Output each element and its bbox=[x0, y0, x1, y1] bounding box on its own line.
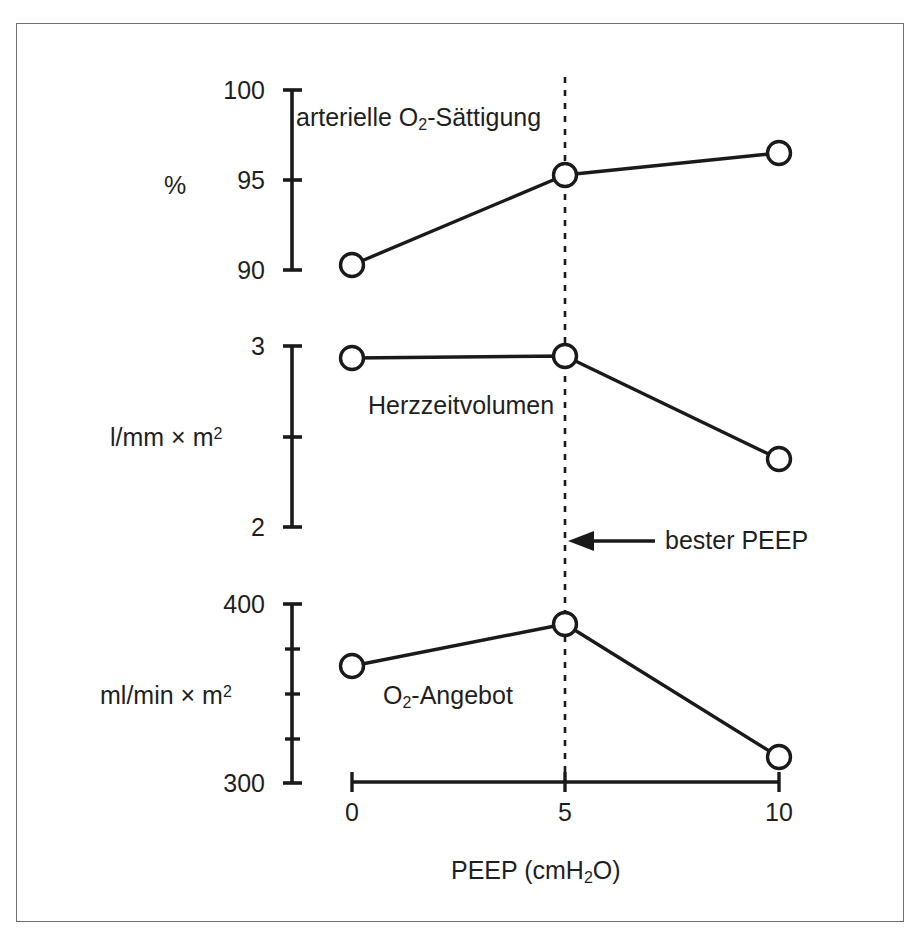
x-tick-label-10: 10 bbox=[749, 800, 809, 825]
x-axis bbox=[352, 772, 779, 792]
x-tick-label-0: 0 bbox=[322, 800, 382, 825]
x-tick-label-5: 5 bbox=[535, 800, 595, 825]
series-label-oxygen-saturation: arterielle O2-Sättigung bbox=[296, 105, 541, 133]
y-tick-label-sat-95: 95 bbox=[193, 168, 265, 193]
series-label-cardiac-output: Herzzeitvolumen bbox=[368, 393, 554, 418]
y-axis-unit-superscript: 2 bbox=[213, 425, 222, 442]
series-label-text-tail: -Angebot bbox=[411, 681, 512, 709]
y-axis-unit-text: l/mm × m bbox=[110, 423, 213, 451]
y-tick-label-hzv-2: 2 bbox=[193, 515, 265, 540]
y-tick-label-delivery-400: 400 bbox=[183, 592, 265, 617]
data-point-marker bbox=[341, 655, 364, 678]
data-point-marker bbox=[554, 164, 577, 187]
y-axis-unit-cardiac-output: l/mm × m2 bbox=[110, 425, 222, 450]
x-axis-title-subscript: 2 bbox=[584, 869, 593, 886]
y-axis-unit-saturation: % bbox=[164, 173, 186, 198]
best-peep-arrow-icon bbox=[568, 531, 655, 551]
y-tick-label-sat-90: 90 bbox=[193, 258, 265, 283]
data-point-marker bbox=[341, 347, 364, 370]
series-label-text-main: arterielle O bbox=[296, 103, 418, 131]
y-tick-label-hzv-3: 3 bbox=[193, 334, 265, 359]
best-peep-annotation-label: bester PEEP bbox=[665, 528, 808, 553]
series-label-text-tail: -Sättigung bbox=[427, 103, 541, 131]
data-point-marker bbox=[768, 746, 791, 769]
data-point-marker bbox=[554, 613, 577, 636]
series-label-oxygen-delivery: O2-Angebot bbox=[383, 683, 513, 711]
panel-oxygen-delivery-axis bbox=[283, 604, 302, 783]
data-point-marker bbox=[554, 345, 577, 368]
data-point-marker bbox=[341, 254, 364, 277]
x-axis-title: PEEP (cmH2O) bbox=[451, 858, 621, 886]
x-axis-title-main: PEEP (cmH bbox=[451, 856, 584, 884]
y-tick-label-delivery-300: 300 bbox=[183, 771, 265, 796]
series-label-subscript: 2 bbox=[418, 116, 427, 133]
y-axis-unit-superscript: 2 bbox=[223, 683, 232, 700]
panel-cardiac-output-axis bbox=[283, 346, 302, 527]
data-point-marker bbox=[768, 142, 791, 165]
x-axis-title-tail: O) bbox=[593, 856, 621, 884]
series-label-text-main: O bbox=[383, 681, 402, 709]
y-axis-unit-oxygen-delivery: ml/min × m2 bbox=[100, 683, 232, 708]
y-tick-label-sat-100: 100 bbox=[193, 78, 265, 103]
figure-root: 100 95 90 % arterielle O2-Sättigung 3 2 … bbox=[0, 0, 914, 946]
y-axis-unit-text: ml/min × m bbox=[100, 681, 223, 709]
data-point-marker bbox=[768, 448, 791, 471]
